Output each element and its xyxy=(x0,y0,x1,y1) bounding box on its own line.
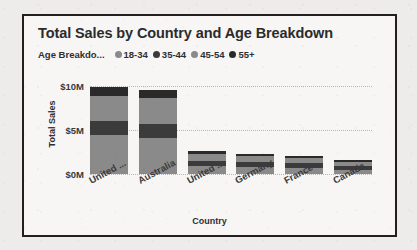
legend-label-18-34: 18-34 xyxy=(124,49,148,60)
y-axis-tick-label: $10M xyxy=(60,81,84,92)
legend-swatch-18-34 xyxy=(115,51,122,58)
legend-item-45-54[interactable]: 45-54 xyxy=(191,49,224,60)
y-axis-title: Total Sales xyxy=(47,101,57,148)
chart-title: Total Sales by Country and Age Breakdown xyxy=(38,25,333,41)
bar-column[interactable] xyxy=(285,73,323,174)
legend-title: Age Breakdo... xyxy=(38,49,105,60)
legend-swatch-45-54 xyxy=(191,51,198,58)
chart-card: Total Sales by Country and Age Breakdown… xyxy=(22,14,397,237)
plot-area: $0M$5M$10M xyxy=(90,73,372,174)
bar-segment-55-plus[interactable] xyxy=(90,87,128,96)
x-axis-title: Country xyxy=(24,216,395,226)
y-axis-tick-label: $5M xyxy=(66,125,84,136)
bar-group xyxy=(90,73,372,174)
bar-segment-45-54[interactable] xyxy=(90,96,128,121)
legend-item-55-plus[interactable]: 55+ xyxy=(229,49,254,60)
legend-label-55-plus: 55+ xyxy=(238,49,254,60)
gridline xyxy=(90,174,372,175)
screenshot-page: Total Sales by Country and Age Breakdown… xyxy=(0,0,417,250)
y-axis-tick-label: $0M xyxy=(66,169,84,180)
x-axis-tick-labels: United ...AustraliaUnited ...GermanyFran… xyxy=(90,176,372,218)
legend-label-45-54: 45-54 xyxy=(200,49,224,60)
legend-swatch-55-plus xyxy=(229,51,236,58)
legend-item-35-44[interactable]: 35-44 xyxy=(153,49,186,60)
bar-segment-35-44[interactable] xyxy=(139,124,177,138)
chart-legend: Age Breakdo... 18-34 35-44 45-54 55+ xyxy=(38,49,255,60)
bar-column[interactable] xyxy=(334,73,372,174)
bar-segment-55-plus[interactable] xyxy=(139,90,177,99)
legend-swatch-35-44 xyxy=(153,51,160,58)
bar-segment-35-44[interactable] xyxy=(90,121,128,135)
legend-item-18-34[interactable]: 18-34 xyxy=(115,49,148,60)
legend-label-35-44: 35-44 xyxy=(162,49,186,60)
bar-segment-45-54[interactable] xyxy=(139,98,177,123)
